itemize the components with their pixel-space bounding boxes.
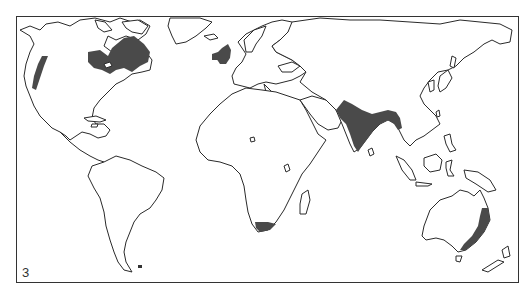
java-outline [416, 182, 432, 186]
south-america-outline [88, 156, 164, 272]
iceland-outline [204, 34, 218, 40]
ireland-highlight [212, 52, 218, 60]
north-america-outline [20, 18, 152, 140]
borneo-outline [424, 154, 442, 172]
new-zealand-south-outline [482, 260, 504, 272]
falklands-marker [138, 265, 142, 268]
korea-outline [428, 80, 434, 92]
greenland-outline [168, 18, 212, 44]
japan-outline [438, 70, 452, 92]
panel-label: 3 [22, 265, 29, 280]
sri-lanka-outline [368, 148, 374, 156]
sumatra-outline [396, 156, 416, 180]
lake-chad-outline [250, 137, 255, 142]
taiwan-outline [436, 110, 440, 117]
madagascar-outline [300, 190, 310, 214]
philippines-outline [444, 134, 456, 152]
sulawesi-outline [446, 160, 454, 176]
world-map [0, 0, 531, 299]
new-zealand-north-outline [502, 246, 510, 258]
tasmania-outline [456, 256, 462, 262]
hispaniola-outline [91, 124, 98, 127]
new-guinea-outline [464, 170, 496, 192]
british-isles-highlight [216, 44, 231, 64]
